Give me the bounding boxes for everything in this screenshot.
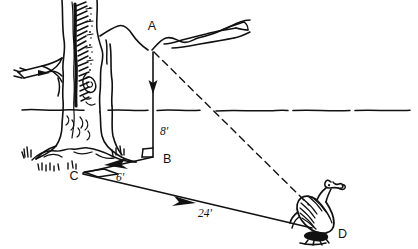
point-label-b: B xyxy=(163,152,171,166)
measure-label-ground-24ft: 24' xyxy=(198,207,213,219)
point-label-c: C xyxy=(69,169,78,183)
trunk-right-edge xyxy=(106,40,122,155)
tree-vulture-diagram-svg: A B C D 8' 6' 24' xyxy=(0,0,418,249)
bark-stipple xyxy=(89,7,93,71)
measure-label-vertical-8ft: 8' xyxy=(160,125,169,137)
right-angle-marker-b xyxy=(142,148,153,157)
horizon-line xyxy=(22,110,410,111)
dashed-sight-line-a-to-d xyxy=(154,52,309,205)
left-branch-stub xyxy=(14,58,62,96)
segment-a-to-b xyxy=(142,52,158,157)
right-branch xyxy=(100,20,250,50)
measure-label-ground-6ft: 6' xyxy=(116,171,125,183)
figure-root: A B C D 8' 6' 24' xyxy=(0,0,418,249)
point-label-d: D xyxy=(338,227,347,241)
vulture xyxy=(290,180,345,245)
point-label-a: A xyxy=(148,19,157,33)
